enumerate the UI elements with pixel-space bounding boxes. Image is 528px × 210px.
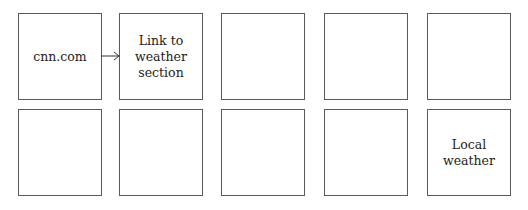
node-empty-1-4 (324, 13, 408, 100)
node-empty-2-2 (119, 109, 203, 196)
node-label: cnn.com (33, 49, 86, 65)
node-local-weather: Local weather (427, 109, 511, 196)
node-cnn-com: cnn.com (18, 13, 102, 100)
node-empty-1-5 (427, 13, 511, 100)
node-empty-2-3 (221, 109, 305, 196)
node-label: Local weather (428, 137, 510, 169)
node-empty-2-4 (324, 109, 408, 196)
node-label: Link to weather section (121, 33, 201, 81)
arrow-right-icon (100, 50, 122, 62)
node-link-to-weather-section: Link to weather section (119, 13, 203, 100)
node-empty-2-1 (18, 109, 102, 196)
node-empty-1-3 (221, 13, 305, 100)
